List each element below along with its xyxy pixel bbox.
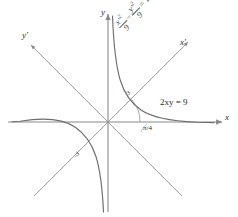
- y-prime-axis-label: y′: [22, 31, 28, 40]
- x-prime-axis-label: x′: [180, 38, 186, 47]
- curve-equation-label: 2xy = 9: [160, 98, 188, 107]
- branch-quadrant-III: [12, 119, 104, 212]
- principal-axes: [8, 14, 222, 212]
- x-axis-label: x: [225, 113, 229, 122]
- rotation-angle-label: π/4: [143, 125, 152, 132]
- y-axis-label: y: [101, 8, 105, 17]
- hyperbola-rotation-figure: y x x′ y′ 2xy = 9 π/4 –3 3 x′2 9 − y′2 9…: [0, 0, 238, 217]
- y-prime-axis-line: [31, 45, 182, 196]
- figure-canvas: [0, 0, 238, 217]
